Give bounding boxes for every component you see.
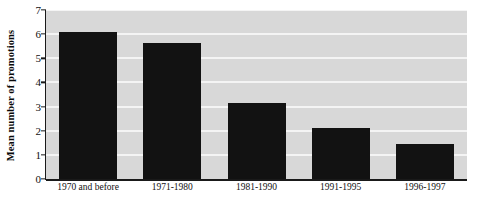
y-axis-tick-mark — [41, 178, 46, 179]
plot-area — [46, 10, 467, 179]
x-axis-tick-label: 1991-1995 — [320, 182, 361, 192]
bar — [143, 43, 201, 179]
bar — [396, 144, 454, 179]
y-axis-tick-mark — [41, 82, 46, 83]
bar — [59, 32, 117, 179]
gridline — [46, 10, 467, 11]
y-axis-tick-mark — [41, 33, 46, 34]
y-axis-tick-mark — [41, 130, 46, 131]
x-axis-line — [46, 179, 467, 181]
x-axis-tick-label: 1996-1997 — [404, 182, 445, 192]
bar — [228, 103, 286, 179]
y-axis-title: Mean number of promotions — [0, 0, 22, 190]
x-axis-tick-label: 1970 and before — [57, 182, 119, 192]
y-axis-tick-mark — [41, 154, 46, 155]
y-axis-tick-mark — [41, 106, 46, 107]
y-axis-tick-mark — [41, 9, 46, 10]
x-axis-tick-label: 1971-1980 — [152, 182, 193, 192]
x-axis-tick-label: 1981-1990 — [236, 182, 277, 192]
y-axis-title-text: Mean number of promotions — [6, 29, 17, 160]
y-axis-tick-mark — [41, 58, 46, 59]
bar-chart: Mean number of promotions 01234567 1970 … — [0, 0, 479, 218]
x-axis-tick-labels: 1970 and before1971-19801981-19901991-19… — [46, 182, 467, 202]
bar — [312, 128, 370, 179]
